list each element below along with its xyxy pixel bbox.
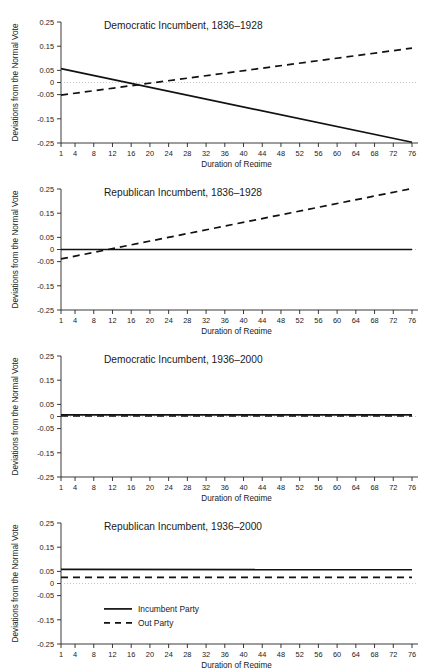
- x-axis-tick-label: 64: [352, 650, 360, 659]
- x-axis-tick-label: 4: [73, 483, 77, 492]
- x-axis-title: Duration of Regime: [201, 327, 272, 334]
- x-axis-tick-label: 24: [165, 483, 173, 492]
- series-line-incumbent-party: [61, 69, 412, 143]
- chart-panel: 0.250.150.050-0.05-0.15-0.25148121620242…: [0, 167, 428, 334]
- y-axis-tick-label: -0.25: [37, 640, 54, 649]
- y-axis-tick-label: -0.15: [37, 616, 54, 625]
- x-axis-tick-label: 64: [352, 483, 360, 492]
- x-axis-tick-label: 32: [202, 316, 210, 325]
- y-axis-tick-label: -0.15: [37, 115, 54, 124]
- y-axis-tick-label: 0.25: [40, 352, 54, 361]
- y-axis-tick-label: 0.15: [40, 42, 54, 51]
- y-axis-title: Deviations from the Normal Vote: [11, 357, 20, 475]
- x-axis-tick-label: 56: [314, 316, 322, 325]
- y-axis-tick-label: 0.15: [40, 543, 54, 552]
- x-axis-tick-label: 8: [92, 483, 96, 492]
- y-axis-tick-label: 0.25: [40, 519, 54, 528]
- y-axis-tick-label: 0.05: [40, 400, 54, 409]
- y-axis-tick-label: -0.25: [37, 139, 54, 148]
- x-axis-tick-label: 72: [389, 149, 397, 158]
- x-axis-tick-label: 36: [221, 149, 229, 158]
- x-axis-tick-label: 8: [92, 316, 96, 325]
- x-axis-tick-label: 16: [127, 650, 135, 659]
- x-axis-tick-label: 24: [165, 316, 173, 325]
- x-axis-tick-label: 44: [258, 316, 266, 325]
- x-axis-tick-label: 32: [202, 483, 210, 492]
- y-axis-title: Deviations from the Normal Vote: [11, 23, 20, 141]
- x-axis-tick-label: 72: [389, 483, 397, 492]
- y-axis-tick-label: -0.15: [37, 449, 54, 458]
- legend-label-incumbent-party: Incumbent Party: [138, 604, 200, 614]
- x-axis-tick-label: 60: [333, 483, 341, 492]
- x-axis-tick-label: 76: [408, 316, 416, 325]
- x-axis-tick-label: 76: [408, 483, 416, 492]
- x-axis-tick-label: 52: [296, 483, 304, 492]
- y-axis-title: Deviations from the Normal Vote: [11, 524, 20, 642]
- y-axis-tick-label: 0.05: [40, 66, 54, 75]
- x-axis-tick-label: 60: [333, 650, 341, 659]
- x-axis-tick-label: 52: [296, 149, 304, 158]
- y-axis-tick-label: 0.15: [40, 376, 54, 385]
- x-axis-tick-label: 68: [370, 650, 378, 659]
- x-axis-tick-label: 24: [165, 149, 173, 158]
- panel-title: Republican Incumbent, 1836–1928: [104, 187, 262, 198]
- y-axis-tick-label: 0: [50, 245, 54, 254]
- y-axis-tick-label: 0.25: [40, 185, 54, 194]
- y-axis-tick-label: 0.05: [40, 233, 54, 242]
- panel-title: Democratic Incumbent, 1836–1928: [104, 20, 263, 31]
- y-axis-tick-label: 0: [50, 412, 54, 421]
- x-axis-tick-label: 28: [183, 650, 191, 659]
- x-axis-tick-label: 48: [277, 483, 285, 492]
- x-axis-tick-label: 56: [314, 149, 322, 158]
- x-axis-tick-label: 4: [73, 316, 77, 325]
- x-axis-tick-label: 60: [333, 149, 341, 158]
- x-axis-tick-label: 1: [59, 316, 63, 325]
- panel-title: Republican Incumbent, 1936–2000: [104, 521, 262, 532]
- panel-title: Democratic Incumbent, 1936–2000: [104, 354, 263, 365]
- x-axis-tick-label: 76: [408, 149, 416, 158]
- x-axis-tick-label: 12: [108, 483, 116, 492]
- y-axis-tick-label: 0.25: [40, 18, 54, 27]
- x-axis-tick-label: 8: [92, 650, 96, 659]
- y-axis-tick-label: 0: [50, 78, 54, 87]
- x-axis-tick-label: 48: [277, 149, 285, 158]
- x-axis-tick-label: 20: [146, 483, 154, 492]
- x-axis-tick-label: 40: [239, 149, 247, 158]
- x-axis-tick-label: 20: [146, 316, 154, 325]
- y-axis-tick-label: -0.25: [37, 473, 54, 482]
- x-axis-tick-label: 48: [277, 316, 285, 325]
- x-axis-tick-label: 72: [389, 650, 397, 659]
- y-axis-tick-label: -0.05: [37, 424, 54, 433]
- x-axis-tick-label: 44: [258, 483, 266, 492]
- y-axis-tick-label: 0.05: [40, 567, 54, 576]
- x-axis-tick-label: 44: [258, 149, 266, 158]
- x-axis-tick-label: 12: [108, 149, 116, 158]
- y-axis-tick-label: 0.15: [40, 209, 54, 218]
- x-axis-tick-label: 36: [221, 316, 229, 325]
- x-axis-tick-label: 44: [258, 650, 266, 659]
- y-axis-title: Deviations from the Normal Vote: [11, 190, 20, 308]
- x-axis-tick-label: 48: [277, 650, 285, 659]
- y-axis-tick-label: -0.25: [37, 306, 54, 315]
- y-axis-tick-label: -0.05: [37, 591, 54, 600]
- x-axis-tick-label: 16: [127, 316, 135, 325]
- x-axis-tick-label: 56: [314, 483, 322, 492]
- x-axis-tick-label: 1: [59, 483, 63, 492]
- x-axis-tick-label: 64: [352, 316, 360, 325]
- chart-panel: 0.250.150.050-0.05-0.15-0.25148121620242…: [0, 0, 428, 167]
- x-axis-title: Duration of Regime: [201, 160, 272, 167]
- x-axis-tick-label: 36: [221, 650, 229, 659]
- y-axis-tick-label: -0.05: [37, 90, 54, 99]
- x-axis-tick-label: 24: [165, 650, 173, 659]
- chart-panel: 0.250.150.050-0.05-0.15-0.25148121620242…: [0, 334, 428, 501]
- x-axis-tick-label: 32: [202, 650, 210, 659]
- legend-label-out-party: Out Party: [138, 618, 174, 628]
- series-line-out-party: [61, 48, 412, 95]
- x-axis-tick-label: 28: [183, 149, 191, 158]
- x-axis-tick-label: 36: [221, 483, 229, 492]
- x-axis-title: Duration of Regime: [201, 494, 272, 501]
- x-axis-tick-label: 20: [146, 149, 154, 158]
- x-axis-tick-label: 1: [59, 650, 63, 659]
- x-axis-tick-label: 1: [59, 149, 63, 158]
